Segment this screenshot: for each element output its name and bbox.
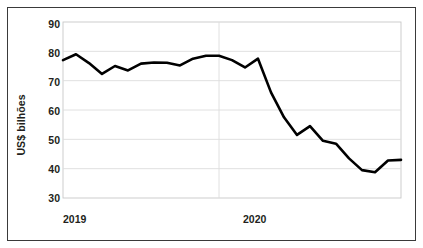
chart-figure: US$ bilhões 90 80 70 60 50 40 30 2019 20… bbox=[0, 0, 423, 248]
line-chart-svg bbox=[0, 0, 423, 248]
plot-area bbox=[63, 22, 401, 198]
plot-wrapper: US$ bilhões 90 80 70 60 50 40 30 2019 20… bbox=[0, 0, 423, 248]
